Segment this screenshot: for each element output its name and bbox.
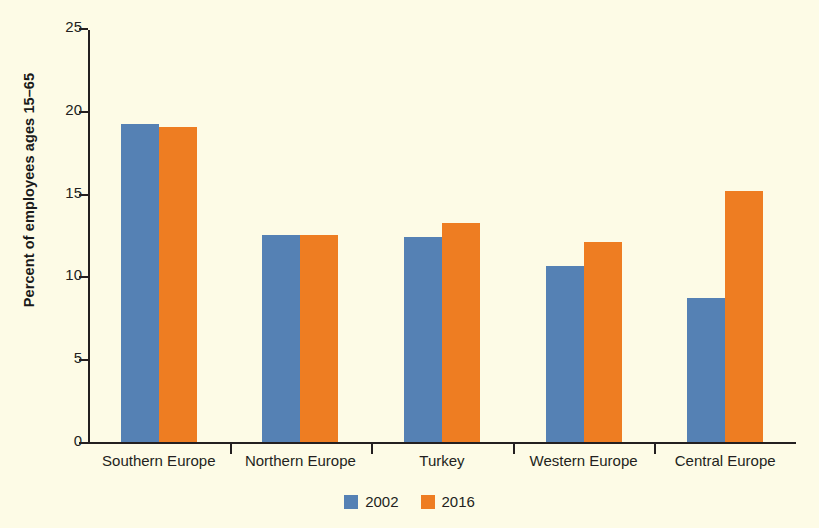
bar-chart: Percent of employees ages 15–65 05101520… — [0, 0, 819, 528]
x-axis-category-label: Northern Europe — [230, 452, 372, 469]
y-axis-tick-label: 5 — [42, 349, 82, 366]
legend-swatch — [344, 495, 358, 509]
chart-legend: 20022016 — [0, 494, 819, 509]
legend-item[interactable]: 2016 — [421, 494, 475, 509]
y-axis-tick-label: 15 — [42, 184, 82, 201]
legend-label: 2002 — [365, 494, 398, 509]
y-axis-tick-label: 20 — [42, 101, 82, 118]
bar — [687, 298, 725, 442]
legend-item[interactable]: 2002 — [344, 494, 398, 509]
x-axis-category-label: Central Europe — [654, 452, 796, 469]
bar — [725, 191, 763, 442]
y-axis-tick-label: 25 — [42, 18, 82, 35]
bar — [262, 235, 300, 442]
x-axis-category-labels: Southern EuropeNorthern EuropeTurkeyWest… — [88, 452, 796, 478]
x-axis-category-label: Turkey — [371, 452, 513, 469]
x-axis-category-label: Southern Europe — [88, 452, 230, 469]
y-axis-title: Percent of employees ages 15–65 — [14, 0, 44, 420]
bar — [584, 242, 622, 442]
bar — [300, 235, 338, 442]
bar — [159, 127, 197, 442]
y-axis-tick-label: 0 — [42, 432, 82, 449]
y-axis-tick-label: 10 — [42, 266, 82, 283]
bar — [442, 223, 480, 442]
bar — [121, 124, 159, 442]
legend-label: 2016 — [442, 494, 475, 509]
x-axis-category-label: Western Europe — [513, 452, 655, 469]
bar — [404, 237, 442, 442]
x-axis-line — [88, 442, 796, 444]
plot-area: 0510152025 — [88, 28, 796, 444]
bars-layer — [88, 28, 796, 442]
legend-swatch — [421, 495, 435, 509]
bar — [546, 266, 584, 442]
